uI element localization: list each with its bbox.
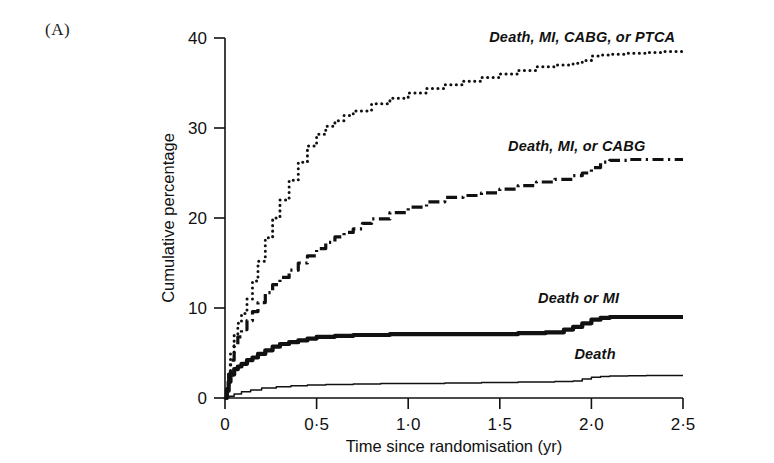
x-tick-label: 0 (220, 415, 229, 434)
y-axis-ticks: 010203040 (188, 29, 225, 408)
y-tick-label: 30 (188, 119, 207, 138)
series-label-2: Death or MI (538, 290, 620, 306)
x-tick-label: 0·5 (304, 415, 329, 434)
series-label-0: Death, MI, CABG, or PTCA (489, 29, 675, 45)
x-axis-ticks: 00·51·01·52·02·5 (220, 398, 695, 434)
y-tick-label: 0 (198, 389, 207, 408)
x-tick-label: 1·0 (396, 415, 421, 434)
x-tick-label: 2·5 (671, 415, 696, 434)
axes-group: 010203040 00·51·01·52·02·5 (188, 29, 695, 434)
series-label-1: Death, MI, or CABG (508, 138, 645, 154)
y-axis-title: Cumulative percentage (159, 133, 177, 303)
series-labels-group: Death, MI, CABG, or PTCADeath, MI, or CA… (489, 29, 675, 363)
series-line-3 (225, 376, 683, 399)
y-tick-label: 10 (188, 299, 207, 318)
chart-page: (A) 010203040 00·51·01·52·02·5 Death, MI… (0, 0, 774, 463)
y-tick-label: 40 (188, 29, 207, 48)
y-tick-label: 20 (188, 209, 207, 228)
cumulative-percentage-chart: 010203040 00·51·01·52·02·5 Death, MI, CA… (0, 0, 774, 463)
x-tick-label: 2·0 (579, 415, 604, 434)
x-tick-label: 1·5 (488, 415, 513, 434)
x-axis-title: Time since randomisation (yr) (346, 437, 563, 455)
series-label-3: Death (574, 346, 615, 362)
